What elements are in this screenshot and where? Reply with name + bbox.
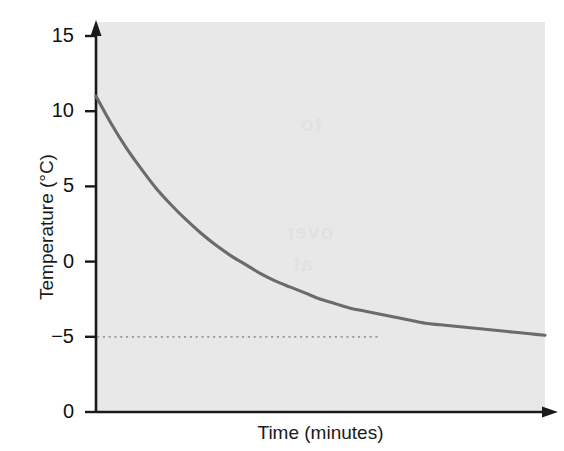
y-axis-title: Temperature (°C) (36, 87, 58, 367)
y-axis-arrow-icon (91, 20, 102, 36)
chart-figure: to over at 15 10 5 0 −5 0 Tem (0, 0, 564, 451)
y-tick-label-15: 15 (22, 24, 74, 47)
y-tick-label-bottom: 0 (22, 400, 74, 423)
y-tick-marks (85, 36, 96, 412)
axes-group (91, 20, 559, 418)
x-axis-title: Time (minutes) (96, 422, 545, 444)
cooling-curve-line (96, 96, 545, 335)
x-axis-arrow-icon (542, 407, 558, 418)
chart-canvas (0, 0, 564, 451)
